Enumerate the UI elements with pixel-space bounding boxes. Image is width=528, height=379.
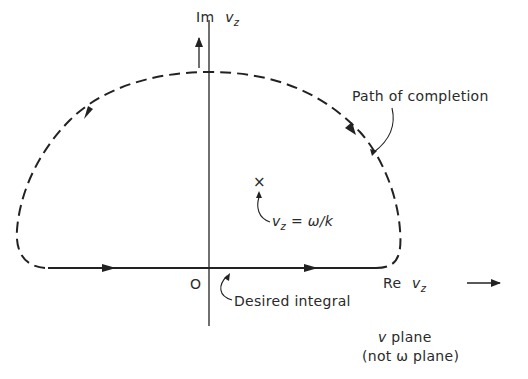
re-text: Re — [383, 275, 401, 291]
contour-direction-arrow-icon — [345, 122, 356, 135]
pole-pointer-arrow-icon — [256, 191, 262, 198]
pole-sub: z — [281, 221, 287, 232]
pole-var: v — [272, 213, 281, 229]
origin-label: O — [190, 277, 201, 291]
re-sub: z — [421, 283, 427, 294]
pole-marker-icon: × — [253, 175, 266, 190]
integral-pointer-arrow-icon — [224, 273, 230, 281]
im-text: Im — [196, 9, 214, 25]
plane-rest: plane — [387, 329, 432, 345]
integral-pointer — [221, 276, 232, 300]
path-of-completion-label: Path of completion — [352, 89, 489, 103]
real-axis-direction-arrow-icon — [102, 264, 116, 272]
real-axis-direction-arrow-icon — [304, 264, 318, 272]
completion-pointer — [374, 108, 393, 152]
pole-rest: = ω/k — [286, 213, 333, 229]
imaginary-axis-label: Im vz — [196, 10, 239, 24]
plane-label-line2: (not ω plane) — [362, 349, 459, 363]
real-axis-label: Re vz — [383, 276, 426, 290]
pole-pointer — [258, 197, 270, 222]
re-var: v — [412, 275, 421, 291]
plane-var: v — [378, 329, 387, 345]
desired-integral-label: Desired integral — [234, 294, 351, 308]
im-var: v — [225, 9, 234, 25]
plane-label-line1: v plane — [378, 330, 432, 344]
im-sub: z — [234, 17, 240, 28]
pole-label: vz = ω/k — [272, 214, 333, 228]
